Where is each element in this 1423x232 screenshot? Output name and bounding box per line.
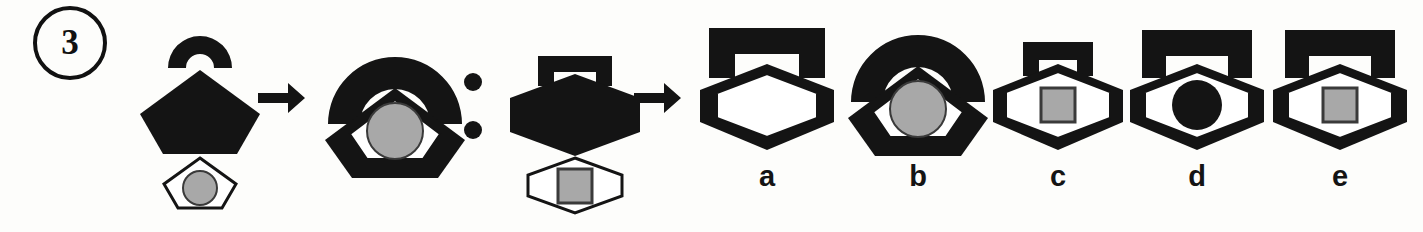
option-a-graphic	[692, 20, 842, 160]
arc-shape	[168, 36, 232, 68]
option-c-label: c	[983, 160, 1133, 193]
arrow-right-icon	[258, 80, 306, 116]
hexagon-shape-black	[510, 74, 640, 156]
option-d[interactable]: d	[1122, 20, 1272, 180]
option-c-graphic	[983, 20, 1133, 160]
item-number-text: 3	[61, 25, 79, 60]
figure-a-graphic	[125, 28, 275, 188]
option-e-graphic	[1265, 20, 1415, 160]
colon-icon	[463, 72, 483, 142]
circle-shape-black	[1172, 80, 1222, 130]
square-shape-gray	[1041, 88, 1075, 122]
square-shape-gray	[558, 169, 592, 203]
option-c[interactable]: c	[983, 20, 1133, 180]
figure-c-graphic	[500, 28, 650, 188]
option-e[interactable]: e	[1265, 20, 1415, 180]
option-b-label: b	[843, 160, 993, 193]
arrow-right-icon	[634, 80, 682, 116]
figure-b-graphic	[320, 28, 470, 188]
option-a-label: a	[692, 160, 842, 193]
puzzle-sheet: 3	[0, 0, 1423, 232]
analogy-colon	[463, 72, 483, 142]
pentagon-shape-black	[140, 70, 260, 154]
figure-a	[125, 28, 275, 188]
circle-shape-gray	[890, 81, 946, 137]
option-b-graphic	[843, 20, 993, 160]
option-d-label: d	[1122, 160, 1272, 193]
circle-shape-gray	[367, 103, 423, 159]
option-d-graphic	[1122, 20, 1272, 160]
option-e-label: e	[1265, 160, 1415, 193]
arrow-2	[634, 80, 682, 116]
option-a[interactable]: a	[692, 20, 842, 180]
figure-b	[320, 28, 470, 188]
arrow-1	[258, 80, 306, 116]
figure-c	[500, 28, 650, 188]
square-shape-gray	[1323, 88, 1357, 122]
option-b[interactable]: b	[843, 20, 993, 180]
item-number-badge: 3	[33, 6, 107, 80]
circle-shape-gray	[183, 171, 217, 205]
